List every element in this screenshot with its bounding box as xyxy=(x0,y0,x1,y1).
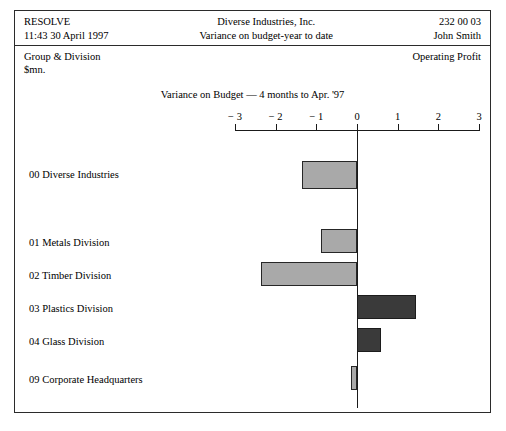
variance-bar xyxy=(351,366,357,390)
variance-bar xyxy=(357,295,416,319)
x-axis-tick-label: − 3 xyxy=(228,111,242,122)
zero-baseline xyxy=(357,130,358,408)
x-axis-tick-label: − 2 xyxy=(269,111,283,122)
x-axis-tick xyxy=(479,124,480,131)
x-axis-tick-labels: − 3− 2− 10123 xyxy=(15,111,492,125)
variance-bar xyxy=(261,262,357,286)
chart-plot-area: − 3− 2− 10123 00 Diverse Industries01 Me… xyxy=(15,11,492,414)
category-label: 03 Plastics Division xyxy=(29,303,113,314)
x-axis-tick-label: 0 xyxy=(354,111,359,122)
x-axis-tick xyxy=(235,124,236,131)
category-label: 04 Glass Division xyxy=(29,336,104,347)
report-frame: RESOLVE 11:43 30 April 1997 Diverse Indu… xyxy=(14,10,491,413)
variance-bar xyxy=(321,229,357,253)
x-axis-tick-label: 2 xyxy=(436,111,441,122)
x-axis-tick-label: 1 xyxy=(395,111,400,122)
category-label: 01 Metals Division xyxy=(29,237,110,248)
x-axis-tick-label: − 1 xyxy=(309,111,323,122)
variance-bar xyxy=(357,328,381,352)
x-axis-tick xyxy=(438,124,439,130)
x-axis-tick xyxy=(398,124,399,130)
category-label: 09 Corporate Headquarters xyxy=(29,374,143,385)
x-axis-tick xyxy=(276,124,277,130)
x-axis-tick xyxy=(357,124,358,130)
x-axis-tick-label: 3 xyxy=(476,111,481,122)
category-label: 02 Timber Division xyxy=(29,270,111,281)
variance-bar xyxy=(302,161,357,189)
x-axis-tick xyxy=(316,124,317,130)
category-label: 00 Diverse Industries xyxy=(29,169,119,180)
